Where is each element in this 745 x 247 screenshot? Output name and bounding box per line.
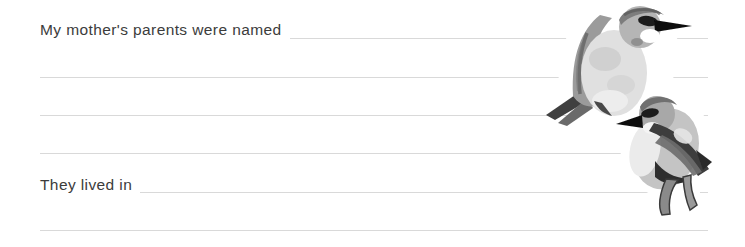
prompt-they-lived-in: They lived in xyxy=(40,176,132,193)
writing-line-6[interactable] xyxy=(40,230,708,231)
memory-book-page: My mother's parents were named They live… xyxy=(0,0,745,247)
birds-watercolor-illustration xyxy=(538,3,713,217)
two-birds-icon xyxy=(538,3,713,217)
prompt-mothers-parents-named: My mother's parents were named xyxy=(40,21,282,38)
